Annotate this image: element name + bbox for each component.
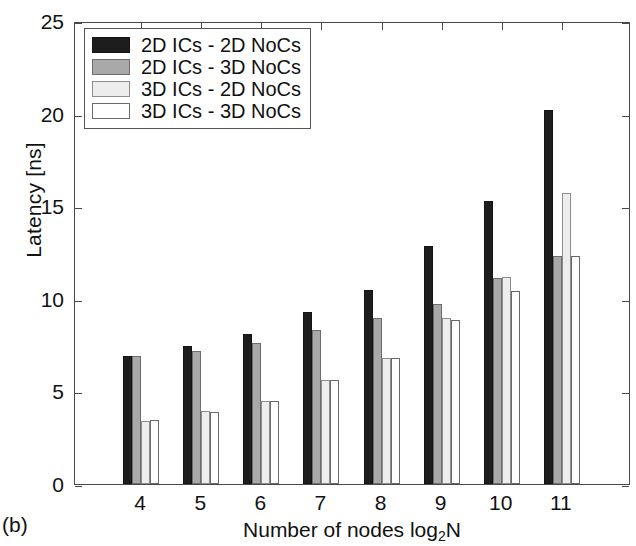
x-tick-label-10: 10 <box>471 492 531 513</box>
legend-label-2: 3D ICs - 2D NoCs <box>141 79 301 99</box>
x-tick-label-6: 6 <box>230 492 290 513</box>
bar-series3-cat5 <box>210 412 219 484</box>
y-tick-mark <box>75 486 82 487</box>
figure-panel-b: Latency [ns] 0510152025 4567891011 Numbe… <box>0 0 636 546</box>
bar-series3-cat6 <box>270 401 279 484</box>
bar-series2-cat11 <box>562 193 571 484</box>
x-axis-label-tail: N <box>446 518 461 541</box>
bar-series1-cat11 <box>553 256 562 484</box>
y-tick-mark-right <box>622 393 629 394</box>
y-tick-label-15: 15 <box>20 196 64 217</box>
bar-series3-cat4 <box>150 420 159 484</box>
y-tick-mark <box>75 393 82 394</box>
y-tick-mark-right <box>622 116 629 117</box>
bar-series1-cat5 <box>192 351 201 484</box>
bar-series0-cat8 <box>364 290 373 484</box>
x-axis-label-base: Number of nodes log <box>243 518 438 541</box>
y-tick-label-10: 10 <box>20 289 64 310</box>
x-tick-label-7: 7 <box>290 492 350 513</box>
bar-series2-cat10 <box>502 277 511 484</box>
bar-series1-cat7 <box>312 330 321 484</box>
bar-series2-cat6 <box>261 401 270 484</box>
bar-series3-cat7 <box>330 380 339 484</box>
bar-series1-cat10 <box>493 278 502 484</box>
legend-swatch-3 <box>92 103 130 119</box>
bar-series2-cat9 <box>442 318 451 484</box>
bar-series0-cat7 <box>303 312 312 484</box>
legend-swatch-2 <box>92 81 130 97</box>
x-tick-label-5: 5 <box>170 492 230 513</box>
bar-series3-cat10 <box>511 291 520 484</box>
bar-series3-cat8 <box>391 358 400 484</box>
legend-swatch-1 <box>92 59 130 75</box>
bar-series2-cat8 <box>382 358 391 484</box>
y-tick-mark <box>75 301 82 302</box>
x-tick-label-11: 11 <box>531 492 591 513</box>
x-tick-mark-top <box>502 23 503 30</box>
bar-series2-cat5 <box>201 411 210 484</box>
bar-series2-cat4 <box>141 421 150 484</box>
bar-series0-cat4 <box>123 356 132 484</box>
legend-item-2: 3D ICs - 2D NoCs <box>92 78 301 100</box>
y-tick-label-5: 5 <box>20 381 64 402</box>
bar-series1-cat8 <box>373 318 382 484</box>
bar-series1-cat6 <box>252 343 261 484</box>
legend-item-1: 2D ICs - 3D NoCs <box>92 56 301 78</box>
x-tick-label-9: 9 <box>411 492 471 513</box>
bar-series0-cat10 <box>484 201 493 484</box>
legend-label-0: 2D ICs - 2D NoCs <box>141 35 301 55</box>
y-tick-mark-right <box>622 23 629 24</box>
y-tick-label-0: 0 <box>20 474 64 495</box>
bar-series0-cat5 <box>183 346 192 484</box>
x-axis-label-subscript: 2 <box>438 528 446 544</box>
bar-series0-cat6 <box>243 334 252 484</box>
bar-series2-cat7 <box>321 380 330 484</box>
x-tick-mark-top <box>321 23 322 30</box>
y-tick-label-20: 20 <box>20 104 64 125</box>
bar-series3-cat11 <box>571 256 580 484</box>
y-tick-label-25: 25 <box>20 11 64 32</box>
y-tick-mark <box>75 116 82 117</box>
chart-legend: 2D ICs - 2D NoCs2D ICs - 3D NoCs3D ICs -… <box>84 28 311 129</box>
bar-series0-cat11 <box>544 110 553 484</box>
bar-series3-cat9 <box>451 320 460 484</box>
legend-label-3: 3D ICs - 3D NoCs <box>141 101 301 121</box>
panel-caption: (b) <box>2 513 28 537</box>
x-tick-label-8: 8 <box>351 492 411 513</box>
legend-label-1: 2D ICs - 3D NoCs <box>141 57 301 77</box>
legend-swatch-0 <box>92 37 130 53</box>
x-tick-mark-top <box>442 23 443 30</box>
bar-series0-cat9 <box>424 246 433 484</box>
y-tick-mark-right <box>622 208 629 209</box>
y-tick-mark <box>75 23 82 24</box>
x-axis-label: Number of nodes log2N <box>74 518 630 542</box>
bar-series1-cat9 <box>433 304 442 484</box>
x-tick-mark-top <box>382 23 383 30</box>
legend-item-3: 3D ICs - 3D NoCs <box>92 100 301 122</box>
legend-item-0: 2D ICs - 2D NoCs <box>92 34 301 56</box>
y-tick-mark-right <box>622 301 629 302</box>
x-tick-mark-top <box>562 23 563 30</box>
y-tick-mark <box>75 208 82 209</box>
x-tick-label-4: 4 <box>110 492 170 513</box>
y-tick-mark-right <box>622 486 629 487</box>
bar-series1-cat4 <box>132 356 141 484</box>
